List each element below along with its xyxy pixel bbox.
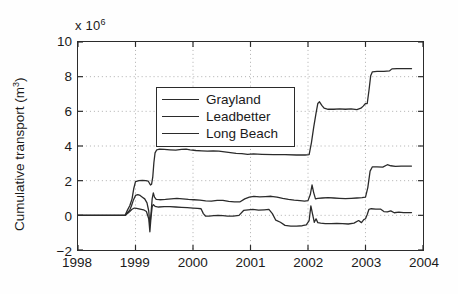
legend-label-long-beach: Long Beach [206,125,278,142]
legend-entry-leadbetter: Leadbetter [162,108,289,125]
legend-line-swatch-grayland [162,99,199,100]
series-line-leadbetter [78,165,411,225]
y-axis-exponent-base: x 10 [75,18,100,33]
figure-container: x 106 Cumulative transport (m3) −2024681… [0,0,458,294]
x-tick-label-1998: 1998 [62,255,92,270]
x-tick-label-2002: 2002 [293,255,323,270]
y-axis-tick-labels: −20246810 [28,0,72,294]
legend-label-grayland: Grayland [206,91,261,108]
x-tick-label-2001: 2001 [235,255,265,270]
x-tick-label-2003: 2003 [351,255,381,270]
legend-line-swatch-long-beach [162,133,199,134]
y-axis-exponent-label: x 106 [75,17,106,33]
legend-entry-long-beach: Long Beach [162,125,289,142]
y-axis-title-close: ) [12,77,27,82]
legend-box: Grayland Leadbetter Long Beach [156,87,295,147]
y-tick-label-10: 10 [57,34,72,49]
y-tick-label-4: 4 [64,139,72,154]
plot-area: Grayland Leadbetter Long Beach [77,41,424,251]
y-tick-label-8: 8 [64,69,72,84]
y-axis-title-text: Cumulative transport (m [12,87,27,231]
y-tick-label-0: 0 [64,209,72,224]
y-axis-exponent-power: 6 [100,17,105,27]
x-tick-label-2000: 2000 [178,255,208,270]
y-tick-label-2: 2 [64,174,72,189]
x-tick-label-2004: 2004 [409,255,439,270]
legend-entry-grayland: Grayland [162,91,289,108]
y-tick-label-6: 6 [64,104,72,119]
legend-line-swatch-leadbetter [162,116,199,117]
x-tick-label-1999: 1999 [120,255,150,270]
y-axis-title: Cumulative transport (m3) [11,49,28,259]
legend-label-leadbetter: Leadbetter [206,108,271,125]
y-axis-title-sup: 3 [11,82,21,87]
